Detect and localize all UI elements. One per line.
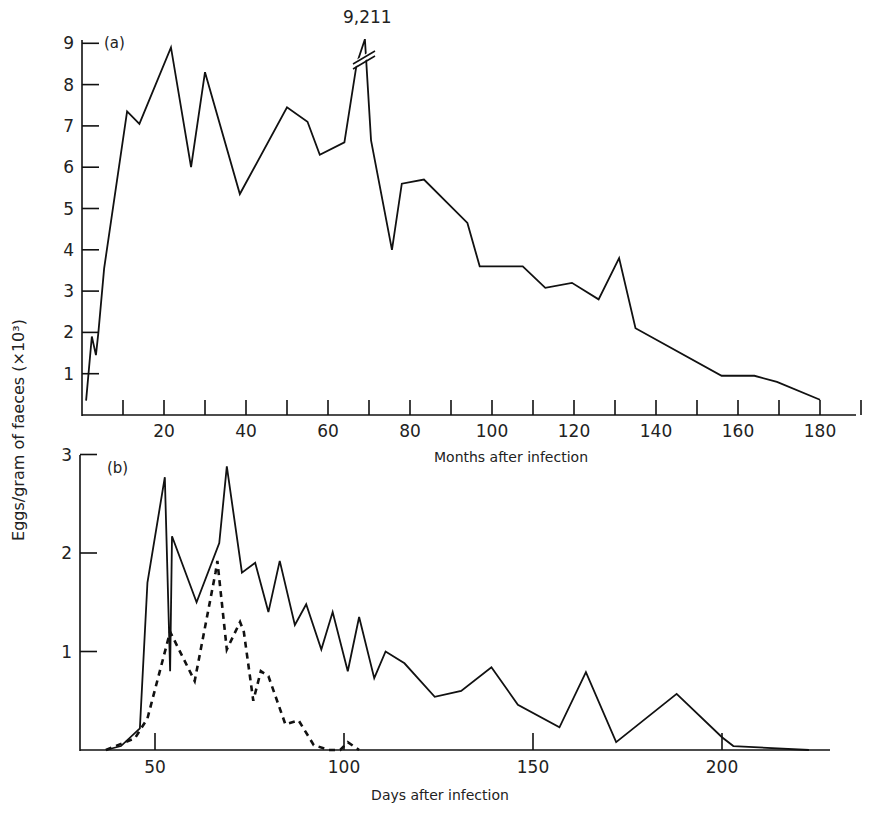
peak-annotation: 9,211 bbox=[343, 7, 392, 27]
y-tick-label: 7 bbox=[63, 116, 74, 136]
panel-a-line bbox=[86, 39, 820, 400]
y-tick-label: 2 bbox=[61, 543, 72, 563]
x-tick-label: 100 bbox=[328, 757, 360, 777]
y-tick-label: 5 bbox=[63, 199, 74, 219]
x-tick-label: 180 bbox=[804, 421, 836, 441]
y-tick-label: 9 bbox=[63, 33, 74, 53]
x-tick-label: 80 bbox=[399, 421, 421, 441]
x-tick-label: 40 bbox=[235, 421, 257, 441]
panel-a-x-ticks: 20406080100120140160180 bbox=[123, 400, 861, 441]
panel-a-x-title: Months after infection bbox=[434, 449, 588, 465]
y-tick-label: 4 bbox=[63, 240, 74, 260]
y-tick-label: 6 bbox=[63, 157, 74, 177]
panel-a-chart: 123456789 20406080100120140160180 (a) 9,… bbox=[63, 7, 861, 465]
y-tick-label: 1 bbox=[61, 642, 72, 662]
panel-b-chart: 123 50100150200 (b) Days after infection bbox=[61, 445, 830, 804]
panel-a-label: (a) bbox=[104, 34, 125, 52]
y-tick-label: 3 bbox=[61, 445, 72, 465]
panel-b-x-ticks: 50100150200 bbox=[144, 733, 738, 777]
y-tick-label: 8 bbox=[63, 75, 74, 95]
y-tick-label: 2 bbox=[63, 322, 74, 342]
x-tick-label: 140 bbox=[640, 421, 672, 441]
x-tick-label: 20 bbox=[153, 421, 175, 441]
shared-y-title: Eggs/gram of faeces (×10³) bbox=[9, 319, 28, 541]
panel-b-y-ticks: 123 bbox=[61, 445, 97, 662]
x-tick-label: 150 bbox=[517, 757, 549, 777]
panel-b-x-title: Days after infection bbox=[371, 787, 509, 803]
panel-b-solid-line bbox=[106, 466, 809, 750]
figure: 123456789 20406080100120140160180 (a) 9,… bbox=[0, 0, 869, 825]
x-tick-label: 200 bbox=[706, 757, 738, 777]
x-tick-label: 50 bbox=[144, 757, 166, 777]
y-tick-label: 1 bbox=[63, 364, 74, 384]
y-tick-label: 3 bbox=[63, 281, 74, 301]
panel-a-y-ticks: 123456789 bbox=[63, 33, 99, 383]
panel-b-label: (b) bbox=[107, 459, 128, 477]
x-tick-label: 120 bbox=[558, 421, 590, 441]
x-tick-label: 100 bbox=[476, 421, 508, 441]
x-tick-label: 160 bbox=[722, 421, 754, 441]
axis-break-marks bbox=[353, 51, 375, 69]
x-tick-label: 60 bbox=[317, 421, 339, 441]
